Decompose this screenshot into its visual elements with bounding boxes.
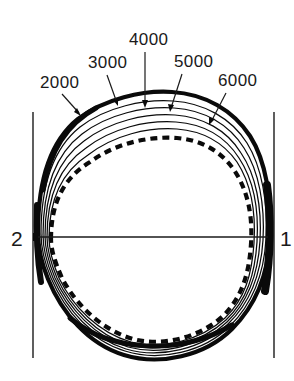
contour-diagram: 2000 3000 4000 5000 6000 2 1	[0, 0, 294, 381]
contour-label-5000: 5000	[174, 52, 213, 71]
axis-label-right: 1	[280, 227, 292, 250]
leader-arrow-6000	[209, 117, 215, 125]
axis-label-left: 2	[11, 227, 23, 250]
centerline-left-tick	[33, 233, 38, 241]
contour-label-3000: 3000	[88, 53, 127, 72]
contour-label-6000: 6000	[218, 71, 257, 90]
figure-canvas: 2000 3000 4000 5000 6000 2 1	[0, 0, 294, 381]
contour-label-4000: 4000	[129, 30, 168, 49]
right-wall-shading	[265, 185, 270, 291]
contour-label-2000: 2000	[40, 73, 79, 92]
leader-arrow-4000	[142, 100, 148, 108]
